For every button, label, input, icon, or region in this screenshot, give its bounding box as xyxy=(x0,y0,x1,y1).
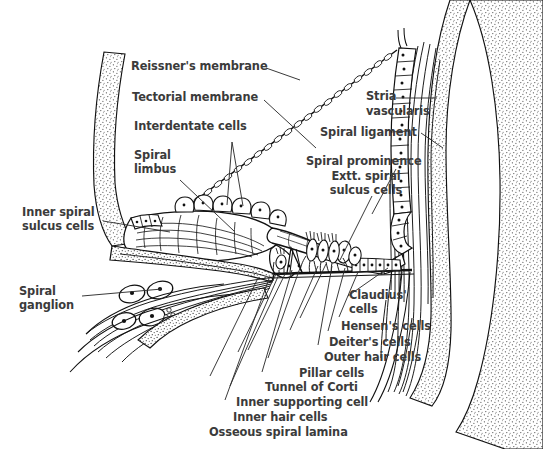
spiral-prominence xyxy=(391,212,412,254)
label-ext-spiral-sulcus-cells-line2: sulcus cells xyxy=(306,184,426,197)
label-inner-spiral-sulcus-cells-line2: sulcus cells xyxy=(22,220,94,233)
label-claudius-cells-line2: cells xyxy=(349,303,378,316)
label-stria-vascularis-line2: vascularis xyxy=(366,105,430,118)
label-tectorial-membrane: Tectorial membrane xyxy=(132,91,258,104)
label-inner-supporting-cell: Inner supporting cell xyxy=(236,396,368,409)
label-outer-hair-cells: Outer hair cells xyxy=(324,351,421,364)
label-spiral-ganglion-line1: Spiral xyxy=(19,285,56,298)
outer-hair-cells xyxy=(306,231,341,263)
label-stria-vascularis-line1: Stria xyxy=(366,90,396,103)
label-ext-spiral-sulcus-cells-line1: Extt. spiral xyxy=(306,170,426,183)
cochlea-cross-section-figure: Reissner's membrane Tectorial membrane I… xyxy=(0,0,543,449)
leader-extra-c xyxy=(290,266,318,330)
label-reissners-membrane: Reissner's membrane xyxy=(131,60,268,73)
label-spiral-prominence: Spiral prominence xyxy=(306,155,422,168)
label-claudius-cells-line1: Claudius' xyxy=(349,289,407,302)
leader-reissners-membrane xyxy=(266,68,300,80)
label-osseous-spiral-lamina: Osseous spiral lamina xyxy=(209,426,348,439)
label-pillar-cells: Pillar cells xyxy=(299,367,364,380)
leader-outer-hair-cells xyxy=(318,266,332,345)
label-inner-spiral-sulcus-cells-line1: Inner spiral xyxy=(22,206,95,219)
label-spiral-ganglion-line2: ganglion xyxy=(19,299,74,312)
label-interdentate-cells: Interdentate cells xyxy=(134,120,247,133)
label-tunnel-of-corti: Tunnel of Corti xyxy=(265,381,358,394)
otic-capsule-bone-right xyxy=(410,0,543,449)
label-inner-hair-cells: Inner hair cells xyxy=(233,411,328,424)
otic-capsule-bone-left xyxy=(93,52,133,246)
label-hensens-cells: Hensen's cells xyxy=(341,320,431,333)
label-spiral-limbus-line2: limbus xyxy=(134,163,176,176)
leader-osseous-spiral-lamina-a xyxy=(210,278,258,376)
scala-vestibuli-boundary xyxy=(398,28,407,48)
label-deiters-cells: Deiter's cells xyxy=(329,336,411,349)
leader-interdentate-cells-b xyxy=(232,142,243,206)
leader-tectorial-membrane xyxy=(264,100,316,148)
label-spiral-limbus-line1: Spiral xyxy=(134,149,171,162)
label-spiral-ligament: Spiral ligament xyxy=(320,126,417,139)
